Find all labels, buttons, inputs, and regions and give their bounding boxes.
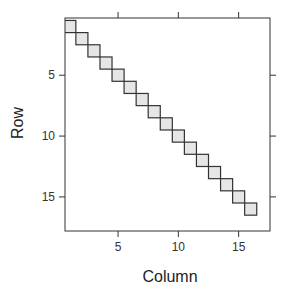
matrix-cell [184,142,196,154]
matrix-cell [112,69,124,81]
matrix-cell [172,130,184,142]
matrix-cell [100,57,112,69]
tick-label: 10 [42,129,56,143]
axis-ticks: 5101551015 [42,12,276,254]
matrix-cells [64,20,257,215]
matrix-cell [64,20,76,32]
matrix-cell [160,118,172,130]
tick-label: 10 [172,240,186,254]
matrix-cell [209,166,221,178]
matrix-cell [233,191,245,203]
matrix-cell [88,45,100,57]
matrix-cell [124,81,136,93]
matrix-cell [221,179,233,191]
y-axis-label: Row [9,107,27,139]
tick-label: 15 [42,190,56,204]
x-axis-label: Column [142,268,197,286]
matrix-cell [136,93,148,105]
matrix-cell [148,106,160,118]
matrix-cell [245,203,257,215]
tick-label: 5 [48,68,55,82]
chart-plot-area: 5101551015 [0,0,288,298]
matrix-cell [76,33,88,45]
tick-label: 15 [232,240,246,254]
matrix-cell [196,154,208,166]
tick-label: 5 [115,240,122,254]
